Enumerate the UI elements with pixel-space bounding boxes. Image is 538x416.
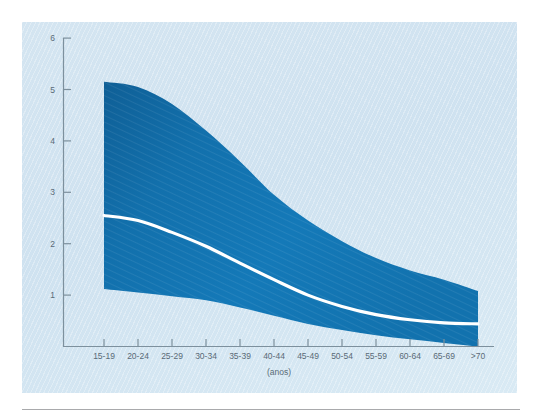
y-tick-label: 6	[50, 33, 55, 43]
x-tick-label: 20-24	[127, 351, 149, 361]
x-axis-title: (anos)	[267, 367, 291, 377]
y-tick-label: 3	[50, 187, 55, 197]
x-tick-label: 30-34	[195, 351, 217, 361]
y-axis-ticks	[63, 38, 71, 295]
x-tick-label: 35-39	[229, 351, 251, 361]
y-tick-label: 2	[50, 239, 55, 249]
y-tick-label: 1	[50, 290, 55, 300]
bottom-divider-rule	[22, 409, 520, 410]
x-tick-label: 15-19	[93, 351, 115, 361]
chart-plot-area: 123456 15-1920-2425-2930-3435-3940-4445-…	[0, 0, 538, 416]
x-tick-label: 25-29	[161, 351, 183, 361]
x-tick-label: 45-49	[297, 351, 319, 361]
x-tick-label: 60-64	[399, 351, 421, 361]
x-tick-label: >70	[471, 351, 486, 361]
x-axis-tick-labels: 15-1920-2425-2930-3435-3940-4445-4950-54…	[93, 351, 485, 361]
x-tick-label: 50-54	[331, 351, 353, 361]
confidence-band-texture	[104, 82, 478, 347]
x-tick-label: 65-69	[433, 351, 455, 361]
x-tick-label: 40-44	[263, 351, 285, 361]
y-tick-label: 5	[50, 85, 55, 95]
x-tick-label: 55-59	[365, 351, 387, 361]
y-axis-tick-labels: 123456	[50, 33, 55, 300]
figure-container: 123456 15-1920-2425-2930-3435-3940-4445-…	[0, 0, 538, 416]
y-tick-label: 4	[50, 136, 55, 146]
